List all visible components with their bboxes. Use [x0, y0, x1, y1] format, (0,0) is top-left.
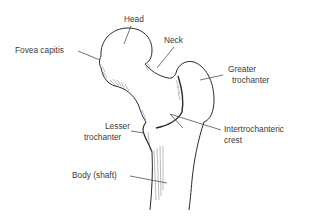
intertrochanteric-crest-label-line1: Intertrochanteric	[224, 124, 284, 134]
body-shaft-label: Body (shaft)	[72, 170, 117, 180]
lesser-trochanter-label-line2: trochanter	[84, 132, 121, 142]
greater-trochanter-leader-line	[200, 75, 223, 80]
lesser-trochanter-label-line1: Lesser	[105, 121, 130, 131]
femur-diagram: Head Fovea capitis Neck Greater trochant…	[0, 0, 315, 216]
body-shaft-leader-line	[130, 176, 167, 183]
fovea-capitis-label: Fovea capitis	[15, 45, 64, 55]
lesser-trochanter-outline	[143, 122, 152, 152]
neck-leader-line	[157, 47, 174, 68]
femur-illustration	[0, 0, 315, 216]
lateral-shaft-outline	[189, 122, 204, 210]
greater-trochanter-label-line1: Greater	[228, 64, 256, 74]
lesser-trochanter-leader-line	[131, 131, 144, 133]
medial-shaft-outline	[150, 152, 152, 210]
neck-label: Neck	[164, 35, 183, 45]
femoral-head-outline	[101, 28, 152, 64]
intertrochanteric-crest-line	[156, 76, 183, 128]
head-leader-line	[124, 26, 131, 44]
neck-lower-outline	[115, 86, 146, 122]
fovea-notch-outline	[100, 56, 116, 86]
neck-shading	[102, 64, 180, 100]
greater-trochanter-label-line2: trochanter	[232, 75, 269, 85]
intertrochanteric-crest-label-line2: crest	[224, 135, 242, 145]
fovea-capitis-leader-line	[78, 51, 100, 60]
head-label: Head	[124, 14, 144, 24]
neck-upper-outline	[145, 64, 176, 78]
